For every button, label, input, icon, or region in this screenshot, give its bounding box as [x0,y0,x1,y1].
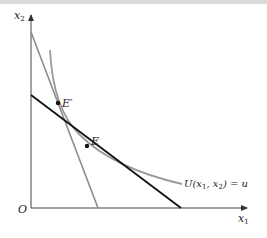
point-e-prime [56,101,60,105]
point-e [85,144,89,148]
y-axis-label: x2 [14,9,25,23]
point-e-prime-label: E′ [61,97,73,110]
x-axis-label: x1 [238,212,249,226]
origin-label: O [18,203,27,216]
utility-curve-label: U(x1, x2) = u [184,178,248,191]
point-e-label: E [90,135,99,148]
diagram-canvas: E′ E x2 x1 O U(x1, x2) = u [0,0,267,238]
indifference-curve [50,50,182,184]
budget-line [31,95,181,208]
